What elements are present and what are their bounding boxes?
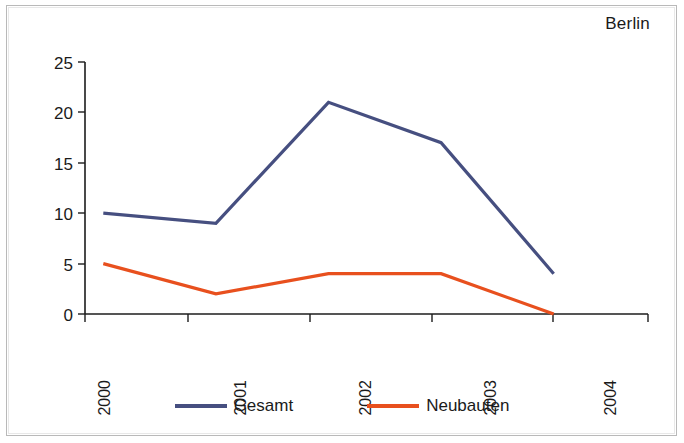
chart-legend: Gesamt Neubauten — [0, 396, 684, 416]
legend-entry-neubauten[interactable]: Neubauten — [367, 396, 509, 416]
y-tick-label-25: 25 — [54, 54, 73, 73]
legend-swatch-gesamt — [175, 404, 227, 408]
series-line-gesamt — [103, 102, 553, 273]
legend-swatch-neubauten — [367, 404, 419, 408]
series-line-neubauten — [103, 264, 553, 314]
y-axis-ticks — [78, 62, 85, 314]
y-tick-label-0: 0 — [64, 306, 73, 325]
legend-label-neubauten: Neubauten — [426, 396, 509, 416]
plot-area: 25 20 15 10 5 0 — [0, 0, 684, 443]
y-tick-label-10: 10 — [54, 205, 73, 224]
chart-figure: Berlin 25 20 15 10 5 0 — [0, 0, 684, 443]
x-axis-ticks — [85, 314, 648, 322]
legend-entry-gesamt[interactable]: Gesamt — [175, 396, 294, 416]
y-axis-tick-labels: 25 20 15 10 5 0 — [54, 54, 73, 325]
legend-label-gesamt: Gesamt — [234, 396, 294, 416]
y-tick-label-20: 20 — [54, 104, 73, 123]
y-tick-label-15: 15 — [54, 155, 73, 174]
y-tick-label-5: 5 — [64, 256, 73, 275]
